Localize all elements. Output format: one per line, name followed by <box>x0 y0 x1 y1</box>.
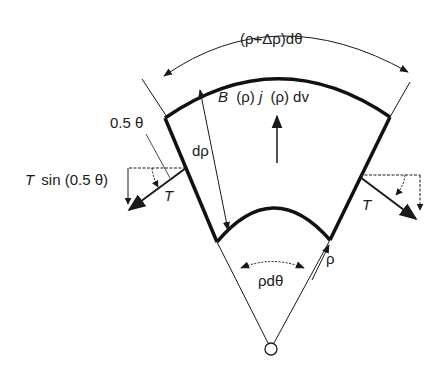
inner-arc-dimension <box>241 262 304 269</box>
body-force-B: B <box>218 88 228 105</box>
inner-arc <box>217 208 330 242</box>
half-angle-arc-right <box>396 175 405 195</box>
tension-right-label: T <box>362 196 373 213</box>
half-angle-arc-left <box>152 168 158 187</box>
half-angle-label: 0.5 θ <box>110 114 143 131</box>
half-angle-leader <box>146 134 170 178</box>
tension-component-T: T <box>25 171 36 188</box>
inner-radius-label: ρ <box>326 250 335 267</box>
body-force-rho1: (ρ) <box>236 88 255 105</box>
tension-component-label: T sin (0.5 θ) <box>25 171 108 188</box>
body-force-tail: (ρ) dv <box>270 88 309 105</box>
center-point <box>265 343 277 355</box>
tension-left-label: T <box>164 187 175 204</box>
inner-arc-length-label: ρdθ <box>258 272 283 289</box>
radial-line-right <box>274 240 330 343</box>
thickness-label: dρ <box>192 142 209 159</box>
extension-line-right <box>390 82 410 117</box>
curved-element-diagram: (ρ+Δρ)dθ B (ρ) j (ρ) dv dρ 0.5 θ T sin (… <box>0 0 444 366</box>
body-force-j: j <box>257 88 263 105</box>
tension-component-rest: sin (0.5 θ) <box>41 171 108 188</box>
right-side <box>330 117 390 240</box>
outer-arc-length-label: (ρ+Δρ)dθ <box>240 30 303 47</box>
radial-line-left <box>217 242 268 343</box>
extension-line-left <box>142 79 167 117</box>
body-force-label: B (ρ) j (ρ) dv <box>218 88 309 105</box>
tension-left-arrow <box>129 168 186 210</box>
